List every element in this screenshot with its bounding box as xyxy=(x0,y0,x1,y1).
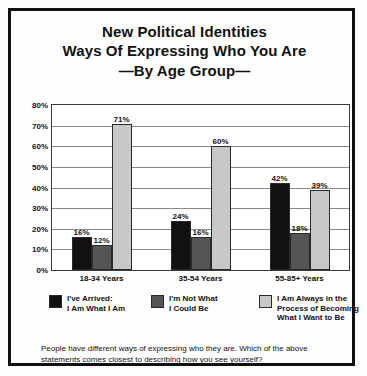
title-line-1: New Political Identities xyxy=(11,22,358,41)
y-axis-tick-label: 50% xyxy=(32,162,48,171)
y-axis-tick-label: 60% xyxy=(32,142,48,151)
bar[interactable]: 12% xyxy=(92,245,112,270)
title-line-3: —By Age Group— xyxy=(11,60,358,81)
legend-item-label: I'm Not WhatI Could Be xyxy=(169,294,218,313)
bar-group: 24%16%60%35-54 Years xyxy=(151,105,250,270)
legend-item-label: I Am Always in theProcess of BecomingWha… xyxy=(277,294,359,323)
legend-label-line: I'm Not What xyxy=(169,294,218,304)
bar-value-label: 71% xyxy=(113,115,129,124)
legend-label-line: I Could Be xyxy=(169,304,218,314)
chart-legend: I've Arrived:I Am What I AmI'm Not WhatI… xyxy=(41,294,356,332)
y-axis-tick-label: 70% xyxy=(32,121,48,130)
legend-label-line: I Am Always in the xyxy=(277,294,359,304)
bar-value-label: 60% xyxy=(212,137,228,146)
page-title: New Political Identities Ways Of Express… xyxy=(11,22,358,81)
bar-chart-plot-area: 0%10%20%30%40%50%60%70%80% 16%12%71%18-3… xyxy=(51,104,350,271)
bar-group: 16%12%71%18-34 Years xyxy=(52,105,151,270)
bar-value-label: 18% xyxy=(291,224,307,233)
footnote: People have different ways of expressing… xyxy=(41,344,341,365)
bar-value-label: 42% xyxy=(271,174,287,183)
y-axis-tick-label: 10% xyxy=(32,245,48,254)
legend-color-swatch xyxy=(151,295,164,308)
x-axis-category-label: 35-54 Years xyxy=(179,274,223,283)
y-axis-tick-label: 20% xyxy=(32,224,48,233)
y-axis-tick-label: 40% xyxy=(32,183,48,192)
legend-color-swatch xyxy=(259,295,272,308)
bar-value-label: 39% xyxy=(311,181,327,190)
bar[interactable]: 16% xyxy=(72,237,92,270)
bar[interactable]: 18% xyxy=(290,233,310,270)
chart-frame-border: New Political Identities Ways Of Express… xyxy=(8,8,355,366)
bar[interactable]: 16% xyxy=(191,237,211,270)
legend-label-line: Process of Becoming xyxy=(277,304,359,314)
title-line-2: Ways Of Expressing Who You Are xyxy=(11,41,358,60)
bar-value-label: 12% xyxy=(93,236,109,245)
legend-item[interactable]: I'm Not WhatI Could Be xyxy=(151,294,218,313)
bar[interactable]: 60% xyxy=(211,146,231,270)
y-axis-tick-label: 30% xyxy=(32,204,48,213)
chart-page: New Political Identities Ways Of Express… xyxy=(0,0,367,376)
y-axis-tick-label: 0% xyxy=(36,266,48,275)
x-axis-category-label: 18-34 Years xyxy=(80,274,124,283)
legend-color-swatch xyxy=(49,295,62,308)
bar[interactable]: 42% xyxy=(270,183,290,270)
legend-label-line: What I Want to Be xyxy=(277,313,359,323)
bar[interactable]: 39% xyxy=(310,190,330,270)
x-axis-category-label: 55-85+ Years xyxy=(275,274,324,283)
bar-value-label: 24% xyxy=(172,212,188,221)
legend-item-label: I've Arrived:I Am What I Am xyxy=(67,294,125,313)
bar-value-label: 16% xyxy=(73,228,89,237)
bars-container: 16%12%71%18-34 Years24%16%60%35-54 Years… xyxy=(52,105,349,270)
legend-item[interactable]: I Am Always in theProcess of BecomingWha… xyxy=(259,294,359,323)
y-axis-tick-label: 80% xyxy=(32,101,48,110)
legend-item[interactable]: I've Arrived:I Am What I Am xyxy=(49,294,125,313)
legend-label-line: I've Arrived: xyxy=(67,294,125,304)
bar-value-label: 16% xyxy=(192,228,208,237)
bar[interactable]: 71% xyxy=(112,124,132,270)
legend-label-line: I Am What I Am xyxy=(67,304,125,314)
bar-group: 42%18%39%55-85+ Years xyxy=(250,105,349,270)
bar[interactable]: 24% xyxy=(171,221,191,271)
